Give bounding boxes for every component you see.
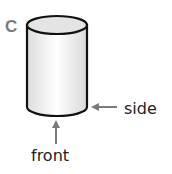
front-label: front bbox=[31, 146, 69, 165]
side-label: side bbox=[124, 99, 157, 118]
cylinder-diagram bbox=[0, 0, 172, 174]
front-arrow-icon bbox=[52, 120, 60, 144]
cylinder-shape bbox=[27, 16, 87, 116]
side-arrow-icon bbox=[91, 103, 117, 111]
